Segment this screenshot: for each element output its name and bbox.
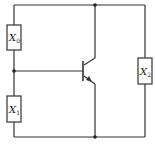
junction-dot-bottom xyxy=(93,135,97,139)
label-x0: X0 xyxy=(8,32,20,44)
label-x2: X2 xyxy=(139,66,151,78)
label-x1: X1 xyxy=(8,104,20,116)
collector-lead xyxy=(84,58,95,65)
circuit-diagram: X0 X1 X2 xyxy=(0,0,155,151)
emitter-arrow-icon xyxy=(86,76,92,82)
junction-dot-top xyxy=(93,3,97,7)
junction-dot-left xyxy=(12,69,16,73)
